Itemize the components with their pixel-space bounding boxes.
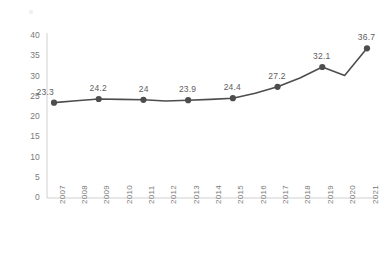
plot-area [0, 0, 388, 253]
data-point-value-label: 24 [139, 84, 149, 94]
x-axis-tick-label: 2019 [326, 185, 335, 204]
y-axis-tick-label: 30 [18, 71, 40, 81]
x-axis-tick-label: 2018 [303, 185, 312, 204]
x-axis-tick-label: 2021 [371, 185, 380, 204]
x-axis-tick-label: 2008 [80, 185, 89, 204]
data-point-marker[interactable] [364, 45, 370, 51]
data-point-marker[interactable] [51, 100, 57, 106]
data-point-value-label: 23.3 [37, 87, 54, 97]
y-axis-tick-label: 10 [18, 152, 40, 162]
y-axis-tick-label: 5 [18, 172, 40, 182]
x-axis-tick-label: 2010 [125, 185, 134, 204]
x-axis-tick-label: 2011 [147, 186, 156, 204]
data-point-value-label: 32.1 [313, 51, 330, 61]
data-point-marker[interactable] [96, 96, 102, 102]
x-axis-tick-label: 2016 [259, 185, 268, 204]
y-axis-tick-label: 40 [18, 30, 40, 40]
y-axis-tick-label: 0 [18, 192, 40, 202]
x-axis-tick-label: 2012 [169, 185, 178, 204]
y-axis-tick-label: 15 [18, 131, 40, 141]
y-axis-tick-label: 35 [18, 50, 40, 60]
data-point-value-label: 24.2 [90, 83, 107, 93]
x-axis-tick-label: 2015 [236, 185, 245, 204]
data-point-marker[interactable] [185, 97, 191, 103]
x-axis-tick-label: 2017 [281, 185, 290, 204]
data-point-marker[interactable] [140, 97, 146, 103]
x-axis-tick-label: 2013 [192, 185, 201, 204]
x-axis-tick-label: 2009 [102, 185, 111, 204]
x-axis-tick-label: 2020 [348, 185, 357, 204]
data-point-marker[interactable] [274, 84, 280, 90]
data-point-value-label: 24.4 [224, 82, 241, 92]
data-point-marker[interactable] [319, 64, 325, 70]
x-axis-tick-label: 2007 [58, 185, 67, 204]
line-chart: 0510152025303540 20072008200920102011201… [0, 0, 388, 253]
data-point-value-label: 23.9 [179, 84, 196, 94]
y-axis-tick-label: 20 [18, 111, 40, 121]
data-point-value-label: 27.2 [268, 71, 285, 81]
data-point-value-label: 36.7 [358, 32, 375, 42]
x-axis-tick-label: 2014 [214, 185, 223, 204]
data-point-marker[interactable] [230, 95, 236, 101]
